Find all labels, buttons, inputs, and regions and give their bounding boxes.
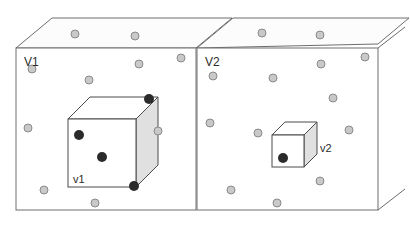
point-light [85, 76, 93, 84]
point-light [316, 177, 324, 185]
volume-v1-label: V1 [24, 55, 39, 69]
point-light [131, 32, 139, 40]
scene-svg: v1 V1 [0, 0, 410, 235]
point-dark [278, 153, 288, 163]
point-dark [129, 181, 139, 191]
point-light [91, 199, 99, 207]
point-light [269, 74, 277, 82]
point-light [317, 60, 325, 68]
point-light [24, 124, 32, 132]
subvolume-v1-label: v1 [73, 173, 85, 185]
point-dark [144, 94, 154, 104]
point-light [329, 94, 337, 102]
point-light [258, 29, 266, 37]
point-light [135, 60, 143, 68]
point-light [361, 53, 369, 61]
point-light [345, 126, 353, 134]
point-light [316, 31, 324, 39]
point-dark [97, 152, 107, 162]
point-light [40, 186, 48, 194]
point-light [273, 199, 281, 207]
point-light [206, 119, 214, 127]
subvolume-v1: v1 [68, 97, 158, 187]
volume-v2: v2 V2 [197, 18, 409, 210]
point-light [209, 72, 217, 80]
subvolume-v2-label: v2 [320, 142, 332, 154]
v2-sub-front-face [272, 135, 304, 167]
point-dark [74, 130, 84, 140]
v2-right-bottom-edge [378, 189, 405, 210]
point-light [177, 54, 185, 62]
point-light [254, 129, 262, 137]
figure-canvas: v1 V1 [0, 0, 410, 235]
point-light [154, 127, 162, 135]
v1-top-face [16, 18, 232, 48]
v2-points-dark [278, 153, 288, 163]
v2-top-face [197, 18, 409, 48]
point-light [71, 30, 79, 38]
volume-v2-label: V2 [205, 55, 220, 69]
point-light [227, 186, 235, 194]
